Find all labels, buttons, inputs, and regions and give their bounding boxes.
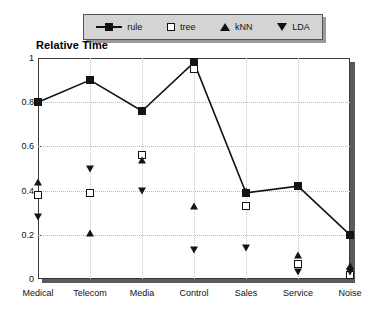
data-point-knn-media: [138, 156, 146, 163]
x-tick-label: Sales: [235, 288, 258, 298]
legend-label-rule: rule: [127, 22, 142, 32]
triangle-up-icon: [220, 23, 230, 31]
x-tick-label: Control: [179, 288, 208, 298]
plot-area: [38, 58, 350, 279]
data-point-knn-control: [190, 203, 198, 210]
triangle-down-icon: [277, 23, 287, 31]
data-point-tree-medical: [34, 191, 42, 199]
y-tick-label: 0: [29, 274, 34, 284]
data-point-knn-service: [294, 251, 302, 258]
data-point-rule-service: [294, 182, 302, 190]
legend-label-tree: tree: [180, 22, 196, 32]
legend-entry-tree: tree: [167, 22, 196, 32]
data-point-lda-telecom: [86, 165, 94, 172]
data-point-rule-noise: [346, 231, 354, 239]
legend-label-lda: LDA: [292, 22, 310, 32]
legend-label-knn: kNN: [235, 22, 253, 32]
y-tick-label: 0.2: [21, 230, 34, 240]
y-tick-label: 1: [29, 53, 34, 63]
data-point-rule-telecom: [86, 76, 94, 84]
x-tick-label: Medical: [22, 288, 53, 298]
x-tick-label: Media: [130, 288, 155, 298]
data-point-lda-sales: [242, 245, 250, 252]
data-point-lda-control: [190, 247, 198, 254]
x-tick-label: Telecom: [73, 288, 107, 298]
y-tick-label: 0.8: [21, 97, 34, 107]
data-point-lda-service: [294, 269, 302, 276]
x-tick-label: Noise: [338, 288, 361, 298]
chart-legend: rule tree kNN LDA: [83, 14, 323, 40]
legend-entry-rule: rule: [96, 21, 142, 33]
y-tick-label: 0.6: [21, 141, 34, 151]
data-point-tree-control: [190, 65, 198, 73]
data-point-knn-sales: [242, 187, 250, 194]
data-point-lda-noise: [346, 269, 354, 276]
data-point-rule-medical: [34, 98, 42, 106]
filled-square-line-icon: [96, 21, 122, 33]
data-point-tree-telecom: [86, 189, 94, 197]
data-point-tree-sales: [242, 202, 250, 210]
legend-entry-lda: LDA: [277, 22, 310, 32]
data-point-knn-medical: [34, 178, 42, 185]
data-point-rule-media: [138, 107, 146, 115]
data-point-knn-telecom: [86, 229, 94, 236]
x-tick-label: Service: [283, 288, 313, 298]
y-tick-label: 0.4: [21, 186, 34, 196]
axis-shadow-right: [350, 62, 355, 283]
data-point-lda-medical: [34, 214, 42, 221]
y-axis-tick-labels: 00.20.40.60.81: [0, 58, 34, 279]
data-point-tree-service: [294, 260, 302, 268]
open-square-icon: [167, 23, 175, 31]
chart-title: Relative Time: [36, 39, 108, 51]
legend-entry-knn: kNN: [220, 22, 253, 32]
data-point-lda-media: [138, 187, 146, 194]
